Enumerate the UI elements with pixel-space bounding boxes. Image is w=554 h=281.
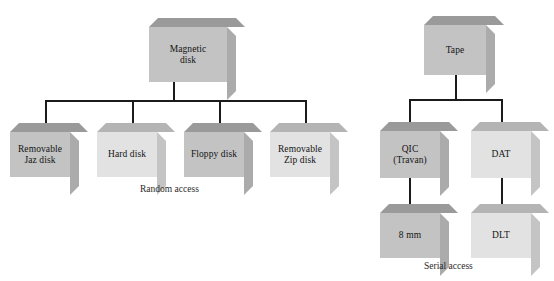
box-front-face-dat: DAT	[471, 131, 531, 178]
connector-magnetic-disk-bus	[45, 100, 306, 102]
box-front-face-magnetic-disk: Magnetic disk	[149, 27, 227, 82]
connector-drop-floppy-disk	[219, 100, 221, 124]
box-front-face-hard-disk: Hard disk	[97, 132, 157, 177]
box-side-face-removable-jaz-disk	[70, 132, 79, 195]
box-top-face-removable-zip-disk	[270, 123, 348, 132]
box-top-face-tape	[424, 16, 504, 25]
box-top-face-eight-mm	[380, 204, 458, 213]
node-label-removable-zip-disk: Removable Zip disk	[276, 144, 324, 165]
connector-drop-qic-travan	[409, 99, 411, 123]
connector-qic-travan-to-eight-mm	[409, 178, 411, 204]
node-removable-jaz-disk: Removable Jaz disk	[10, 132, 70, 177]
node-floppy-disk: Floppy disk	[184, 132, 244, 177]
connector-drop-hard-disk	[132, 100, 134, 124]
caption-random-access: Random access	[140, 184, 199, 194]
node-label-floppy-disk: Floppy disk	[189, 149, 239, 160]
box-side-face-qic-travan	[440, 131, 449, 196]
storage-media-diagram: Magnetic disk Removable Jaz disk Hard di…	[0, 0, 554, 281]
box-front-face-dlt: DLT	[471, 213, 531, 258]
connector-drop-removable-jaz-disk	[45, 100, 47, 124]
connector-tape-bus	[409, 99, 502, 101]
box-top-face-hard-disk	[97, 123, 175, 132]
node-magnetic-disk: Magnetic disk	[149, 27, 227, 82]
box-top-face-dat	[471, 122, 549, 131]
box-front-face-removable-zip-disk: Removable Zip disk	[270, 132, 330, 177]
node-tape: Tape	[424, 25, 486, 75]
box-side-face-magnetic-disk	[227, 27, 236, 100]
box-top-face-dlt	[471, 204, 549, 213]
box-front-face-eight-mm: 8 mm	[380, 213, 440, 258]
connector-drop-removable-zip-disk	[305, 100, 307, 124]
node-label-dlt: DLT	[490, 230, 512, 241]
connector-magnetic-disk-stem	[173, 82, 175, 101]
box-side-face-floppy-disk	[244, 132, 253, 195]
box-front-face-removable-jaz-disk: Removable Jaz disk	[10, 132, 70, 177]
connector-drop-dat	[501, 99, 503, 123]
node-label-hard-disk: Hard disk	[106, 149, 148, 160]
node-label-removable-jaz-disk: Removable Jaz disk	[16, 144, 64, 165]
node-label-dat: DAT	[490, 149, 513, 160]
box-front-face-floppy-disk: Floppy disk	[184, 132, 244, 177]
box-top-face-floppy-disk	[184, 123, 262, 132]
box-front-face-tape: Tape	[424, 25, 486, 75]
caption-serial-access: Serial access	[424, 261, 473, 271]
node-qic-travan: QIC (Travan)	[380, 131, 440, 178]
box-front-face-qic-travan: QIC (Travan)	[380, 131, 440, 178]
box-side-face-tape	[486, 25, 495, 93]
node-hard-disk: Hard disk	[97, 132, 157, 177]
connector-dat-to-dlt	[501, 178, 503, 204]
box-side-face-dat	[531, 131, 540, 196]
node-label-tape: Tape	[444, 45, 467, 56]
box-top-face-removable-jaz-disk	[10, 123, 88, 132]
box-side-face-dlt	[531, 213, 540, 276]
box-top-face-qic-travan	[380, 122, 458, 131]
node-eight-mm: 8 mm	[380, 213, 440, 258]
node-label-eight-mm: 8 mm	[397, 230, 423, 241]
connector-tape-stem	[455, 75, 457, 100]
box-side-face-removable-zip-disk	[330, 132, 339, 195]
node-dlt: DLT	[471, 213, 531, 258]
node-removable-zip-disk: Removable Zip disk	[270, 132, 330, 177]
node-label-qic-travan: QIC (Travan)	[391, 144, 429, 165]
node-label-magnetic-disk: Magnetic disk	[168, 44, 209, 65]
node-dat: DAT	[471, 131, 531, 178]
box-top-face-magnetic-disk	[149, 18, 245, 27]
